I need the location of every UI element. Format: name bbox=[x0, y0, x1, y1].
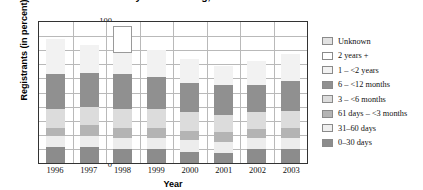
bar-segment bbox=[46, 74, 65, 109]
bar-segment bbox=[281, 81, 300, 111]
bar-segment bbox=[281, 128, 300, 138]
bar-segment bbox=[113, 53, 132, 74]
x-axis-tick-label: 2001 bbox=[207, 166, 241, 175]
stacked-bar[interactable] bbox=[147, 50, 166, 163]
legend-swatch bbox=[322, 95, 333, 103]
chart-figure: of Calendar Year by Time Waiting, 1996–2… bbox=[0, 0, 423, 190]
bar-segment bbox=[80, 45, 99, 73]
stacked-bar[interactable] bbox=[46, 39, 65, 163]
bar-slot bbox=[140, 22, 174, 163]
legend-swatch bbox=[322, 139, 333, 147]
bar-segment bbox=[180, 59, 199, 83]
bar-segment bbox=[281, 111, 300, 128]
bar-segment bbox=[214, 132, 233, 142]
stacked-bar[interactable] bbox=[113, 26, 132, 163]
y-axis-title: Registrants (in percent) bbox=[19, 0, 29, 125]
chart-title: of Calendar Year by Time Waiting, 1996–2… bbox=[0, 0, 310, 2]
bar-segment bbox=[46, 147, 65, 163]
bar-segment bbox=[113, 109, 132, 127]
x-axis-tick-label: 1997 bbox=[72, 166, 106, 175]
legend-label: 6 – <12 months bbox=[338, 80, 390, 89]
bar-segment bbox=[180, 140, 199, 151]
bar-segment bbox=[147, 149, 166, 163]
x-axis-tick-label: 1996 bbox=[38, 166, 72, 175]
legend-item[interactable]: 31–60 days bbox=[322, 121, 423, 136]
legend-item[interactable]: 1 – <2 years bbox=[322, 63, 423, 78]
chart-legend: Unknown2 years +1 – <2 years6 – <12 mont… bbox=[322, 34, 423, 150]
bar-slot bbox=[73, 22, 107, 163]
bar-segment bbox=[247, 112, 266, 129]
bar-segment bbox=[281, 138, 300, 149]
bar-segment bbox=[180, 131, 199, 141]
bar-segment bbox=[214, 153, 233, 163]
bar-segment bbox=[247, 138, 266, 149]
bar-segment bbox=[46, 136, 65, 147]
legend-swatch bbox=[322, 66, 333, 74]
x-axis-tick-label: 2003 bbox=[274, 166, 308, 175]
bar-segment bbox=[80, 136, 99, 147]
x-axis-title: Year bbox=[38, 179, 308, 189]
legend-item[interactable]: 6 – <12 months bbox=[322, 78, 423, 93]
stacked-bar[interactable] bbox=[247, 61, 266, 163]
bar-segment bbox=[147, 77, 166, 109]
legend-label: 3 – <6 months bbox=[338, 95, 386, 104]
bar-segment bbox=[214, 115, 233, 132]
bar-segment bbox=[113, 149, 132, 163]
bar-segment bbox=[281, 149, 300, 163]
bar-segment bbox=[247, 61, 266, 85]
legend-swatch bbox=[322, 52, 333, 60]
bar-segment bbox=[214, 85, 233, 115]
x-axis-tick-label: 1998 bbox=[106, 166, 140, 175]
x-axis-tick-label: 1999 bbox=[139, 166, 173, 175]
legend-item[interactable]: 61 days – <3 months bbox=[322, 107, 423, 122]
bar-segment bbox=[147, 138, 166, 149]
bar-segment bbox=[281, 54, 300, 81]
legend-swatch bbox=[322, 110, 333, 118]
bar-series-group bbox=[39, 22, 307, 163]
bar-slot bbox=[173, 22, 207, 163]
bar-segment bbox=[80, 73, 99, 107]
bar-segment bbox=[113, 74, 132, 109]
bar-slot bbox=[39, 22, 73, 163]
stacked-bar[interactable] bbox=[281, 54, 300, 163]
legend-label: Unknown bbox=[338, 37, 371, 46]
bar-segment bbox=[46, 128, 65, 136]
bar-slot bbox=[240, 22, 274, 163]
bar-segment bbox=[147, 50, 166, 77]
bar-segment bbox=[113, 128, 132, 138]
bar-segment bbox=[180, 112, 199, 130]
bar-segment bbox=[147, 128, 166, 138]
stacked-bar[interactable] bbox=[80, 45, 99, 163]
legend-item[interactable]: Unknown bbox=[322, 34, 423, 49]
legend-swatch bbox=[322, 124, 333, 132]
bar-segment bbox=[180, 83, 199, 113]
x-axis-tick-label: 2000 bbox=[173, 166, 207, 175]
bar-segment bbox=[180, 152, 199, 163]
bar-slot bbox=[106, 22, 140, 163]
bar-segment bbox=[80, 125, 99, 136]
legend-item[interactable]: 0–30 days bbox=[322, 136, 423, 151]
bar-segment bbox=[80, 107, 99, 125]
bar-segment bbox=[247, 149, 266, 163]
bar-segment bbox=[247, 129, 266, 137]
bar-slot bbox=[207, 22, 241, 163]
bar-segment bbox=[80, 147, 99, 163]
legend-item[interactable]: 2 years + bbox=[322, 49, 423, 64]
bar-segment bbox=[214, 142, 233, 153]
legend-label: 2 years + bbox=[338, 51, 368, 60]
plot-area bbox=[38, 21, 308, 164]
stacked-bar[interactable] bbox=[214, 66, 233, 163]
legend-swatch bbox=[322, 81, 333, 89]
bar-slot bbox=[274, 22, 308, 163]
stacked-bar[interactable] bbox=[180, 59, 199, 163]
x-axis-tick-label: 2002 bbox=[241, 166, 275, 175]
bar-segment bbox=[247, 85, 266, 112]
legend-label: 31–60 days bbox=[338, 124, 376, 133]
bar-segment bbox=[113, 138, 132, 149]
bar-segment bbox=[214, 66, 233, 86]
legend-swatch bbox=[322, 37, 333, 45]
legend-label: 0–30 days bbox=[338, 138, 372, 147]
bar-segment bbox=[147, 109, 166, 127]
legend-item[interactable]: 3 – <6 months bbox=[322, 92, 423, 107]
bar-segment bbox=[46, 39, 65, 74]
